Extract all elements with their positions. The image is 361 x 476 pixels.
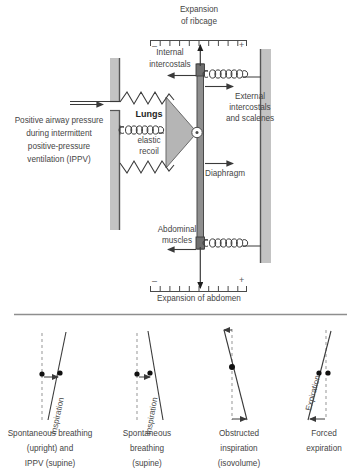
panel-3-caption-line2: inspiration (196, 443, 282, 454)
spring-coil-icon-lung (119, 125, 164, 134)
panel-3-caption-line3: (isovolume) (196, 458, 282, 469)
spring-coil-icon-external (203, 70, 261, 78)
label-internal-intercostals-line1: Internal (132, 48, 208, 59)
label-lungs: Lungs (122, 109, 176, 120)
panel-1-caption-line2: (upright) and (0, 443, 100, 454)
left-wall-lower (110, 110, 120, 230)
label-external-intercostals-line3: and scalenes (205, 114, 295, 125)
figure-root: Expansion of ribcage – + Internal interc… (0, 0, 361, 476)
panel-2-caption-line2: breathing (105, 443, 189, 454)
label-ippv-line3: positive-pressure (4, 142, 114, 153)
right-wall (260, 49, 271, 263)
bottom-scale-label: Expansion of abdomen (143, 294, 255, 305)
label-abdominal-muscles-line2: muscles (140, 236, 214, 247)
panel-1-caption-line1: Spontaneous breathing (0, 428, 100, 439)
top-scale-label-line1: Expansion (148, 5, 250, 16)
label-lungs-recoil: recoil (122, 147, 176, 158)
label-ippv-line2: during intermittent (4, 129, 114, 140)
label-ippv-line1: Positive airway pressure (4, 116, 114, 127)
label-external-intercostals-line2: intercostals (205, 103, 295, 114)
label-abdominal-muscles-line1: Abdominal (140, 225, 214, 236)
panel-1-caption-line3: IPPV (supine) (0, 458, 100, 469)
label-ippv-line4: ventilation (IPPV) (4, 155, 114, 166)
panel-2-caption-line1: Spontaneous (105, 428, 189, 439)
label-internal-intercostals-line2: intercostals (132, 60, 208, 71)
top-scale-label-line2: of ribcage (148, 17, 250, 28)
label-lungs-elastic: elastic (122, 136, 176, 147)
bottom-scale-plus: + (239, 275, 244, 285)
bottom-scale-minus: – (152, 276, 157, 286)
top-scale-ruler (150, 41, 247, 47)
top-scale-plus: + (239, 40, 244, 50)
panel-4-caption-line1: Forced (288, 428, 360, 439)
panel-4-caption-line2: expiration (288, 443, 360, 454)
panel-3-caption-line1: Obstructed (196, 428, 282, 439)
bottom-scale-ruler (150, 286, 247, 292)
pivot-joint-icon (192, 127, 202, 137)
label-external-intercostals-line1: External (205, 92, 295, 103)
central-chest-wall-bar (196, 64, 205, 249)
panel-2-caption-line3: (supine) (105, 458, 189, 469)
label-diaphragm: Diaphragm (205, 169, 275, 180)
panel-3-graphic (224, 329, 247, 420)
left-wall-upper (110, 58, 120, 102)
airway-inlet-arrow (70, 102, 120, 105)
